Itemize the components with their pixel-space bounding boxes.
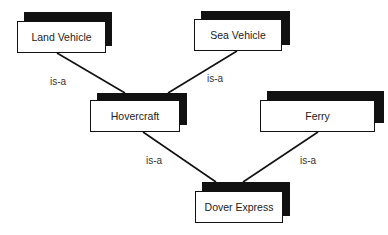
node-label: Hovercraft <box>90 100 180 132</box>
edge-label-is-a: is-a <box>207 73 223 84</box>
node-label: Land Vehicle <box>17 21 106 53</box>
edge-label-is-a: is-a <box>146 155 162 166</box>
edge-label-is-a: is-a <box>50 76 66 87</box>
edge-label-is-a: is-a <box>300 155 316 166</box>
edge-hovercraft-to-sea-vehicle <box>168 51 237 93</box>
node-label: Sea Vehicle <box>194 19 282 51</box>
node-label: Dover Express <box>195 191 283 223</box>
edge-hovercraft-to-land-vehicle <box>57 53 125 93</box>
node-label: Ferry <box>260 100 375 132</box>
